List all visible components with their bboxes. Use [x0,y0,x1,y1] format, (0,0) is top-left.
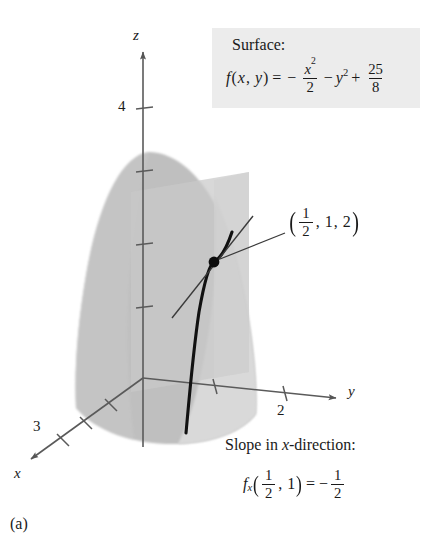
slope-open-paren: ( [253,476,259,493]
surface-x-base: x [304,61,311,77]
y-tick-label-2: 2 [277,403,285,419]
surface-denominator-2: 2 [303,78,316,95]
surface-var-x: x [238,69,245,87]
surface-numerator-25: 25 [365,62,386,78]
panel-label: (a) [10,516,28,533]
surface-open-paren: ( [230,69,237,87]
slope-arg-denominator: 2 [262,484,275,501]
slope-arg-numerator: 1 [262,468,275,484]
y-axis-label: y [348,384,355,400]
figure-container: Surface: f(x, y) = − x2 2 − y2 + 25 8 [0,0,435,560]
point-close-paren: ) [352,212,359,232]
slope-close-paren: ) [296,476,302,493]
slope-arg-fraction-1-over-2: 1 2 [262,468,275,500]
surface-close-paren: ) [262,69,269,87]
point-z-value: 2 [343,214,351,231]
slope-title-var: x [282,436,289,453]
slope-result-denominator: 2 [331,484,344,501]
point-numerator: 1 [299,206,312,222]
z-tick-label-4: 4 [118,99,126,115]
cutting-plane [131,172,249,392]
point-coordinates-label: ( 1 2 , 1, 2 ) [288,206,360,238]
surface-x-exponent: 2 [311,55,316,66]
surface-y-base: y [336,69,343,87]
point-denominator: 2 [299,222,312,239]
slope-minus: − [318,476,329,493]
surface-formula: f(x, y) = − x2 2 − y2 + 25 8 [226,62,388,94]
point-y-value: 1 [325,214,333,231]
slope-arg-one: 1 [287,476,295,493]
surface-equals: = [269,69,284,87]
slope-title-pre: Slope in [225,436,282,453]
surface-comma: , [245,69,251,87]
surface-fraction-x2-over-2: x2 2 [301,62,318,94]
x-axis-label: x [14,466,21,482]
surface-plus: + [348,69,363,87]
z-tick-4 [136,107,153,109]
z-axis-label: z [133,28,139,44]
surface-minus-2: − [321,69,336,87]
slope-result-fraction-1-over-2: 1 2 [331,468,344,500]
surface-minus-1: − [284,69,299,87]
surface-denominator-8: 8 [369,78,382,95]
slope-formula: fx ( 1 2 , 1 ) = − 1 2 [243,468,346,500]
surface-fraction-25-over-8: 25 8 [365,62,386,94]
surface-callout-title: Surface: [232,36,285,54]
surface-var-y: y [255,69,262,87]
surface-callout-box: Surface: f(x, y) = − x2 2 − y2 + 25 8 [212,28,420,108]
point-open-paren: ( [289,212,296,232]
slope-equals: = [303,476,318,493]
slope-callout-title: Slope in x-direction: [225,437,356,454]
point-comma-2: , [333,214,339,231]
slope-result-numerator: 1 [331,468,344,484]
slope-title-post: -direction: [289,436,356,453]
marked-point [209,257,220,268]
point-comma-1: , [315,214,321,231]
slope-comma: , [277,476,283,493]
point-fraction-1-over-2: 1 2 [299,206,312,238]
x-tick-label-3: 3 [33,419,41,435]
